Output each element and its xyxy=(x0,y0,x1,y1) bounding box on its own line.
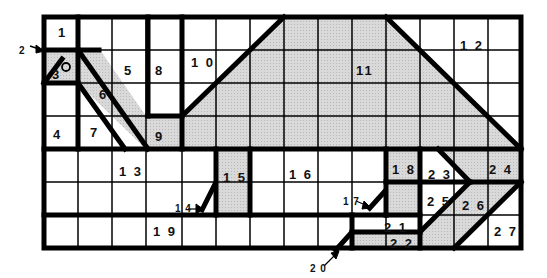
callout-label-17: 1 7 xyxy=(343,196,360,207)
region-label-6: 6 xyxy=(99,87,108,102)
region-label-8: 8 xyxy=(155,63,164,78)
region-label-21: 2 1 xyxy=(384,220,408,235)
region-label-26: 2 6 xyxy=(462,198,486,213)
region-label-11: 11 xyxy=(356,63,374,78)
region-label-22: 2 2 xyxy=(390,236,414,251)
region-label-23: 2 3 xyxy=(428,167,452,182)
region-label-5: 5 xyxy=(124,63,133,78)
region-label-25: 2 5 xyxy=(427,194,451,209)
callout-label-2: 2 xyxy=(19,45,26,56)
region-label-16: 1 6 xyxy=(289,167,313,182)
region-label-1: 1 xyxy=(58,25,67,40)
region-label-13: 1 3 xyxy=(119,164,143,179)
region-label-12: 1 2 xyxy=(460,38,484,53)
region-label-10: 1 0 xyxy=(191,55,215,70)
region-grid-diagram: 134567891 0111 21 31 51 61 81 92 12 22 3… xyxy=(0,0,547,278)
region-label-19: 1 9 xyxy=(153,224,177,239)
region-label-18: 1 8 xyxy=(392,162,416,177)
region-label-3: 3 xyxy=(52,67,61,82)
callout-label-14: 1 4 xyxy=(175,203,192,214)
callout-label-20: 2 0 xyxy=(310,263,327,274)
region-label-24: 2 4 xyxy=(489,162,513,177)
region-label-27: 2 7 xyxy=(494,224,518,239)
region-label-15: 1 5 xyxy=(223,170,247,185)
region-label-9: 9 xyxy=(155,129,164,144)
region-label-7: 7 xyxy=(90,125,99,140)
region-label-4: 4 xyxy=(53,127,62,142)
